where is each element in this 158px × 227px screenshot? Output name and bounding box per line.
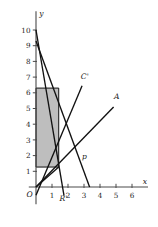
origin-label: O: [26, 190, 33, 199]
x-tick-label-1: 1: [50, 191, 55, 200]
x-tick-label-6: 6: [130, 191, 135, 200]
x-axis-label: x: [143, 177, 148, 186]
y-tick-label-10: 10: [21, 26, 31, 35]
y-tick-label-9: 9: [26, 41, 31, 50]
y-axis-label: y: [38, 9, 44, 18]
y-tick-label-2: 2: [26, 151, 31, 160]
y-tick-label-6: 6: [26, 88, 31, 97]
x-tick-label-4: 4: [98, 191, 103, 200]
y-tick-label-5: 5: [26, 104, 31, 113]
curve-label-p: p: [82, 152, 87, 161]
curve-label-C-prime: C': [81, 72, 89, 81]
y-tick-label-8: 8: [26, 57, 31, 66]
coordinate-plot-figure: 12345612345678910 R'pC'A xyO: [0, 0, 158, 227]
y-tick-label-1: 1: [26, 167, 31, 176]
curve-label-A: A: [113, 92, 120, 101]
curve-label-R-prime: R': [59, 194, 68, 203]
y-tick-label-3: 3: [26, 136, 31, 145]
y-tick-label-4: 4: [26, 120, 31, 129]
y-tick-label-7: 7: [26, 73, 31, 82]
x-tick-label-5: 5: [114, 191, 119, 200]
x-tick-label-3: 3: [82, 191, 87, 200]
